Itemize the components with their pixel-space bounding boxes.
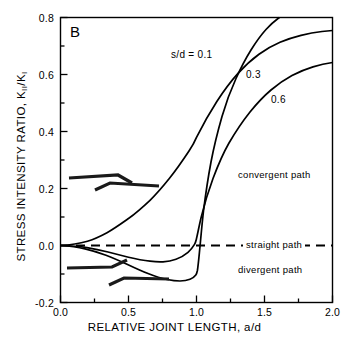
y-axis-ticks <box>61 18 68 303</box>
x-tick-label-2-0: 2.0 <box>314 307 349 318</box>
panel-label: B <box>70 24 81 39</box>
x-axis-ticks <box>61 296 333 303</box>
curve-label-sd-0-1: s/d = 0.1 <box>171 50 212 60</box>
divergent-path-annotation: divergent path <box>238 265 302 275</box>
x-tick-label-1-5: 1.5 <box>246 307 283 318</box>
plot-frame <box>61 18 333 303</box>
y-axis-title: STRESS INTENSITY RATIO, KII/KI <box>16 17 29 317</box>
x-tick-label-1-0: 1.0 <box>178 307 215 318</box>
convergent-path-schematic <box>69 175 159 190</box>
curve-sd-0-6 <box>61 31 333 246</box>
y-axis-title-mid: /K <box>15 74 27 86</box>
curve-label-sd-0-3: 0.3 <box>246 70 261 80</box>
y-axis-title-sub-i: I <box>20 71 29 74</box>
x-tick-label-0-0: 0.0 <box>42 307 79 318</box>
chart-figure: B 0.8 0.6 0.4 0.2 0.0 -0.2 0.0 0.5 1.0 1… <box>0 0 349 342</box>
curve-label-sd-0-6: 0.6 <box>271 95 286 105</box>
divergent-path-schematic <box>67 260 169 285</box>
curve-sd-0-3 <box>61 63 333 262</box>
straight-path-annotation: straight path <box>243 240 305 250</box>
x-tick-label-0-5: 0.5 <box>110 307 147 318</box>
y-axis-title-main: STRESS INTENSITY RATIO, K <box>15 91 27 262</box>
y-axis-title-sub-ii: II <box>20 86 29 91</box>
convergent-path-annotation: convergent path <box>238 170 311 180</box>
x-axis-title: RELATIVE JOINT LENGTH, a/d <box>0 322 349 334</box>
